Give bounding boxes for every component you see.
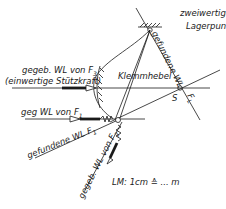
label-point-s: S xyxy=(172,94,177,103)
label-scale: LM: 1cm ≙ ... m xyxy=(112,178,180,187)
force-diagram: zweiwertiger Lagerpunkt gefundene WL Kle… xyxy=(0,0,226,209)
top-bearing-hatch xyxy=(138,23,162,27)
label-bearing-point: zweiwertiger xyxy=(180,9,226,18)
label-bearing-point-2: Lagerpunkt xyxy=(186,22,226,31)
label-given-f3-note: (einwertige Stützkraft) xyxy=(5,77,101,86)
label-given-f1: geg WL von F1 xyxy=(21,108,83,119)
label-clamp-lever: Klemmhebel xyxy=(118,72,171,81)
